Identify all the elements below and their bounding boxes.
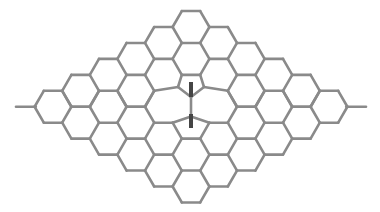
carbon-bond xyxy=(90,139,99,155)
carbon-bond xyxy=(200,155,209,171)
carbon-bond xyxy=(228,139,237,155)
carbon-bond xyxy=(145,91,154,107)
carbon-bond xyxy=(255,155,264,171)
carbon-bond xyxy=(145,123,154,139)
carbon-bond xyxy=(200,27,209,43)
carbon-bond xyxy=(338,91,347,107)
carbon-bond xyxy=(311,123,320,139)
carbon-bond xyxy=(255,91,264,107)
carbon-bond xyxy=(117,107,126,123)
carbon-bond xyxy=(283,123,292,139)
carbon-bond xyxy=(255,43,264,59)
carbon-bond xyxy=(145,59,154,75)
carbon-bond xyxy=(173,139,182,155)
carbon-bond xyxy=(228,123,237,139)
carbon-bond xyxy=(228,27,237,43)
carbon-bond xyxy=(62,123,71,139)
carbon-bond xyxy=(145,155,154,171)
carbon-bond xyxy=(145,27,154,43)
carbon-bond xyxy=(145,107,154,123)
carbon-bond xyxy=(255,59,264,75)
carbon-bond xyxy=(173,171,182,187)
carbon-bond xyxy=(283,59,292,75)
carbon-bond xyxy=(90,75,99,91)
carbon-bond xyxy=(90,59,99,75)
carbon-bond xyxy=(173,59,182,75)
carbon-bond xyxy=(255,107,264,123)
carbon-bond xyxy=(200,123,209,139)
carbon-bond xyxy=(62,91,71,107)
graphene-defect-diagram xyxy=(0,0,380,212)
carbon-bond xyxy=(117,123,126,139)
carbon-bond xyxy=(35,107,44,123)
carbon-bond xyxy=(173,187,182,203)
carbon-bond xyxy=(200,171,209,187)
carbon-bond xyxy=(62,107,71,123)
carbon-bond xyxy=(173,123,182,139)
carbon-bond xyxy=(145,139,154,155)
carbon-bond xyxy=(173,117,191,123)
carbon-bond xyxy=(117,155,126,171)
carbon-bond xyxy=(117,139,126,155)
carbon-bond xyxy=(117,43,126,59)
carbon-bond xyxy=(35,91,44,107)
carbon-bond xyxy=(311,75,320,91)
carbon-bond xyxy=(311,91,320,107)
carbon-bond xyxy=(90,107,99,123)
carbon-bond xyxy=(200,43,209,59)
carbon-bond xyxy=(255,123,264,139)
carbon-bond xyxy=(145,43,154,59)
carbon-bond xyxy=(200,11,209,27)
carbon-bond xyxy=(145,171,154,187)
carbon-bond xyxy=(228,171,237,187)
carbon-bond xyxy=(173,11,182,27)
carbon-bond xyxy=(117,75,126,91)
carbon-bond xyxy=(283,91,292,107)
carbon-bond xyxy=(255,75,264,91)
carbon-bond xyxy=(228,107,237,123)
carbon-bond xyxy=(178,75,182,87)
carbon-bond xyxy=(173,27,182,43)
carbon-bond xyxy=(228,75,237,91)
carbon-bond xyxy=(173,43,182,59)
carbon-bond xyxy=(200,59,209,75)
carbon-bond xyxy=(173,155,182,171)
carbon-bond xyxy=(117,91,126,107)
carbon-bond xyxy=(90,91,99,107)
carbon-bond xyxy=(338,107,347,123)
carbon-bond xyxy=(200,187,209,203)
carbon-bond xyxy=(283,107,292,123)
carbon-bond xyxy=(117,59,126,75)
carbon-bond xyxy=(191,117,209,123)
carbon-bond xyxy=(228,59,237,75)
carbon-bond xyxy=(62,75,71,91)
carbon-bond xyxy=(255,139,264,155)
carbon-bond xyxy=(228,43,237,59)
carbon-bond xyxy=(154,87,178,91)
carbon-bond xyxy=(228,155,237,171)
carbon-bond xyxy=(200,139,209,155)
carbon-bond xyxy=(200,75,204,87)
carbon-bond xyxy=(204,87,228,91)
carbon-bond xyxy=(283,139,292,155)
carbon-bond xyxy=(283,75,292,91)
carbon-bond xyxy=(90,123,99,139)
carbon-bond xyxy=(145,75,154,91)
carbon-bond xyxy=(228,91,237,107)
carbon-bond xyxy=(311,107,320,123)
